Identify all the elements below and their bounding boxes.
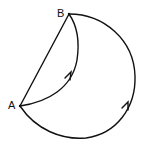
diagram-canvas: [0, 0, 144, 154]
inner-arc: [20, 14, 78, 106]
point-b: [68, 13, 70, 15]
label-a: A: [8, 100, 15, 111]
label-b: B: [57, 8, 64, 19]
inner-arrow-icon: [65, 72, 71, 80]
straight-chord: [20, 14, 69, 106]
point-a: [19, 105, 21, 107]
